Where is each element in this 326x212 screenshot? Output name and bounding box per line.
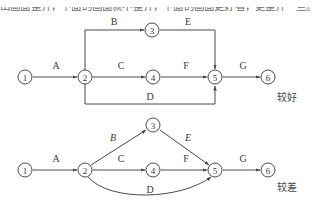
annotation-good: 较好: [277, 92, 297, 104]
edge-label-b: B: [111, 16, 118, 27]
edge-label-c: C: [118, 153, 125, 164]
node-label-1: 1: [23, 73, 28, 83]
edge-label-g: G: [239, 153, 246, 164]
node-label-5: 5: [213, 166, 218, 176]
edge-label-b: B: [110, 132, 116, 143]
edge-label-d: D: [146, 184, 153, 195]
node-label-4: 4: [151, 73, 156, 83]
edge-label-a: A: [52, 153, 60, 164]
edge-label-f: F: [183, 153, 189, 164]
node-label-1: 1: [23, 166, 28, 176]
edge-label-f: F: [183, 60, 189, 71]
edge-label-g: G: [239, 60, 246, 71]
node-label-5: 5: [213, 73, 218, 83]
node-label-3: 3: [151, 121, 156, 131]
edge-label-e: E: [184, 132, 191, 143]
annotation-bad: 较差: [277, 182, 297, 194]
diagram-top-good: ABECFGD123456: [18, 16, 275, 105]
node-label-2: 2: [83, 166, 88, 176]
edge-label-d: D: [146, 91, 153, 102]
diagram-bottom-bad: ABECFGD123456: [18, 118, 275, 195]
node-label-6: 6: [266, 166, 271, 176]
diagram-canvas: 出画面整齐，下面的画面就不整齐，下面的画面更好看，更整齐一些。 ABECFGD1…: [0, 0, 326, 212]
network-diagram-pair: ABECFGD123456 ABECFGD123456: [0, 0, 326, 212]
edge-label-c: C: [118, 60, 125, 71]
edge-b: [85, 30, 144, 70]
edge-label-e: E: [185, 16, 191, 27]
node-label-3: 3: [150, 26, 155, 36]
edge-label-a: A: [52, 60, 60, 71]
node-label-2: 2: [83, 73, 88, 83]
node-label-6: 6: [266, 73, 271, 83]
node-label-4: 4: [151, 166, 156, 176]
